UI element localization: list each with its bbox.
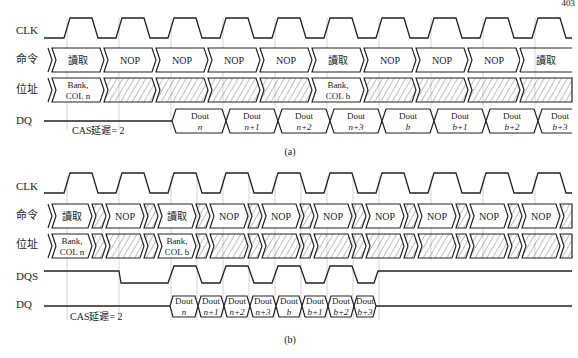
command-cell: NOP	[479, 211, 499, 222]
command-cell: 讀取	[167, 210, 187, 222]
dq-cell: Dout	[254, 296, 272, 306]
command-cell: NOP	[323, 211, 343, 222]
dq-cell: b+1	[307, 307, 322, 317]
command-cell: NOP	[219, 211, 239, 222]
dq-cell: b	[406, 122, 411, 132]
page-number: 403	[562, 0, 576, 8]
dq-cell: Dout	[356, 296, 374, 306]
address-bus-b: Bank, COL n Bank, COL b	[48, 234, 572, 258]
command-cell: 讀取	[62, 210, 82, 222]
command-cell: 讀取	[536, 54, 556, 66]
signal-label-cmd: 命令	[16, 208, 38, 221]
command-cell: 讀取	[328, 54, 348, 66]
command-cell: NOP	[224, 55, 244, 66]
command-cell: NOP	[115, 211, 135, 222]
clk-waveform-b	[44, 173, 572, 193]
dq-cell: Dout	[280, 296, 298, 306]
dq-cell: Dout	[228, 296, 246, 306]
address-cell: Bank,	[327, 80, 348, 90]
signal-label-clk: CLK	[16, 24, 38, 36]
dq-cell: Dout	[399, 111, 417, 121]
cas-latency-label: CAS延遲= 2	[70, 311, 123, 322]
dq-cell: Dout	[243, 111, 261, 121]
address-cell: Bank,	[67, 80, 88, 90]
dq-cell: Dout	[551, 111, 569, 121]
dq-bus-b: Dout n Dout n+1 Dout n+2 Dout n+3 Dout b…	[44, 296, 572, 317]
command-cell: NOP	[120, 55, 140, 66]
dq-cell: n+3	[255, 307, 271, 317]
dq-cell: n+3	[348, 122, 364, 132]
dq-cell: Dout	[175, 296, 193, 306]
caption-b: (b)	[284, 334, 296, 346]
command-bus-a: 讀取 NOP NOP NOP NOP 讀取 NOP NOP NOP 讀取	[48, 48, 572, 72]
dq-cell: b	[287, 307, 292, 317]
dq-cell: n+1	[244, 122, 259, 132]
command-cell: NOP	[172, 55, 192, 66]
signal-label-dq: DQ	[16, 298, 32, 310]
dq-cell: b+3	[552, 122, 568, 132]
dq-cell: n+1	[203, 307, 218, 317]
dqs-waveform	[44, 266, 572, 283]
dq-cell: Dout	[306, 296, 324, 306]
address-cell: Bank,	[166, 236, 187, 246]
dq-cell: n	[182, 307, 187, 317]
command-cell: NOP	[484, 55, 504, 66]
command-cell: NOP	[375, 211, 395, 222]
dq-cell: Dout	[347, 111, 365, 121]
dq-cell: Dout	[295, 111, 313, 121]
signal-label-addr: 位址	[16, 237, 38, 250]
clk-waveform-a	[44, 18, 572, 38]
command-cell: NOP	[276, 55, 296, 66]
diagram-b: CLK 命令 位址 DQS DQ	[16, 173, 572, 346]
signal-label-addr: 位址	[16, 82, 38, 95]
signal-label-dqs: DQS	[16, 270, 38, 282]
signal-label-clk: CLK	[16, 180, 38, 192]
dq-cell: b+2	[504, 122, 520, 132]
dq-cell: n+2	[296, 122, 312, 132]
timing-diagram: 403 CLK 命令 位址 DQ	[0, 0, 578, 358]
caption-a: (a)	[284, 146, 295, 158]
command-cell: NOP	[271, 211, 291, 222]
dq-cell: n	[198, 122, 203, 132]
command-cell: NOP	[531, 211, 551, 222]
signal-label-dq: DQ	[16, 114, 32, 126]
address-cell: COL b	[326, 91, 351, 101]
address-cell: Bank,	[61, 236, 82, 246]
dq-cell: b+3	[357, 307, 373, 317]
command-cell: NOP	[432, 55, 452, 66]
signal-label-cmd: 命令	[16, 52, 38, 65]
dq-cell: b+1	[452, 122, 467, 132]
dq-cell: Dout	[503, 111, 521, 121]
cas-latency-label: CAS延遲= 2	[72, 125, 125, 136]
address-cell: COL b	[165, 247, 190, 257]
address-cell: COL n	[66, 91, 91, 101]
address-bus-a: Bank, COL n Bank, COL b	[48, 78, 572, 102]
dq-cell: Dout	[451, 111, 469, 121]
dq-cell: Dout	[332, 296, 350, 306]
diagram-a: CLK 命令 位址 DQ 讀取 NOP NOP NOP NOP 讀取 NOP N…	[16, 18, 572, 158]
command-cell: 讀取	[68, 54, 88, 66]
address-cell: COL n	[60, 247, 85, 257]
command-cell: NOP	[427, 211, 447, 222]
dq-cell: Dout	[202, 296, 220, 306]
dq-cell: n+2	[229, 307, 245, 317]
command-cell: NOP	[380, 55, 400, 66]
dq-cell: b+2	[333, 307, 349, 317]
dq-cell: Dout	[191, 111, 209, 121]
command-bus-b: 讀取 NOP 讀取 NOP NOP NOP NOP NOP NOP NOP	[48, 204, 572, 228]
